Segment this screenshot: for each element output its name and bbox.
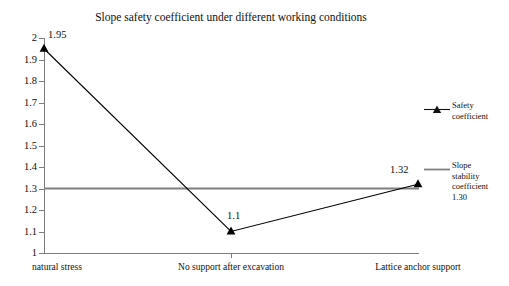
chart-canvas: Slope safety coefficient under different…	[0, 0, 509, 286]
legend-label-line: coefficient	[452, 181, 509, 192]
safety-coefficient-markers	[40, 44, 423, 235]
data-point-value-label: 1.95	[48, 29, 66, 40]
data-point-value-label: 1.1	[227, 210, 240, 221]
legend-label-slope-stability-coefficient: Slope stability coefficient 1.30	[452, 160, 509, 202]
legend-label-safety-coefficient: Safety coefficient	[452, 100, 509, 121]
data-point-value-label: 1.32	[390, 164, 408, 175]
legend-label-line: stability	[452, 171, 509, 182]
legend-marker-line	[424, 165, 450, 174]
legend-label-line: Safety	[452, 100, 509, 111]
data-point-marker[interactable]	[414, 179, 423, 187]
data-point-marker[interactable]	[40, 44, 49, 52]
legend-label-line: 1.30	[452, 192, 509, 203]
legend-label-line: coefficient	[452, 111, 509, 122]
legend-label-line: Slope	[452, 160, 509, 171]
plot-series-layer	[0, 0, 509, 286]
safety-coefficient-line	[44, 49, 418, 232]
legend-marker-triangle-line	[424, 105, 450, 114]
